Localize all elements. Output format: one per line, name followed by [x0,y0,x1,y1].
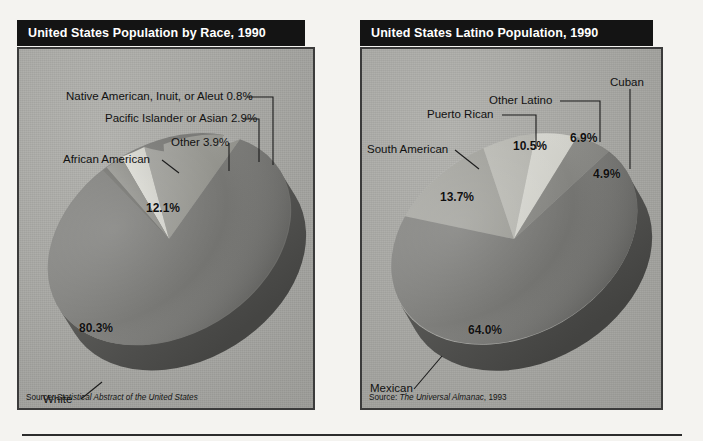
source-note-latino: Source: The Universal Almanac, 1993 [369,393,507,402]
slice-value-other-latino: 6.9% [570,131,597,145]
figure-page: United States Population by Race, 1990 [0,0,703,441]
callout-other: Other 3.9% [171,136,229,149]
callout-south-american-label: South American [367,143,448,156]
source-prefix-latino: Source: [369,393,400,402]
slice-value-white: 80.3% [79,321,113,335]
callout-other-label: Other [171,136,200,148]
callout-cuban-label: Cuban [610,76,644,89]
chart-panel-race: United States Population by Race, 1990 [17,20,335,410]
callout-pacific-islander: Pacific Islander or Asian 2.9% [105,112,257,125]
callout-pacific-islander-value: 2.9% [231,112,257,124]
source-title-race: Statistical Abstract of the United State… [57,393,198,402]
chart-title-latino: United States Latino Population, 1990 [360,26,598,40]
callout-native-american: Native American, Inuit, or Aleut 0.8% [66,90,253,103]
callout-other-value: 3.9% [203,136,229,148]
source-prefix-race: Source: [26,393,57,402]
callout-native-american-label: Native American, Inuit, or Aleut [66,90,223,102]
slice-value-mexican: 64.0% [468,323,502,337]
source-suffix-latino: , 1993 [484,393,507,402]
chart-title-bar-latino: United States Latino Population, 1990 [360,20,653,46]
chart-title-race: United States Population by Race, 1990 [17,26,266,40]
chart-title-bar-race: United States Population by Race, 1990 [17,20,305,46]
source-note-race: Source: Statistical Abstract of the Unit… [26,393,198,402]
callout-pacific-islander-label: Pacific Islander or Asian [105,112,228,124]
callout-african-american-label: African American [63,153,150,166]
slice-value-puerto-rican: 10.5% [513,139,547,153]
chart-plot-area-race: Native American, Inuit, or Aleut 0.8% Pa… [17,47,315,410]
callout-other-latino-label: Other Latino [489,94,552,107]
slice-value-cuban: 4.9% [593,167,620,181]
slice-value-south-american: 13.7% [440,190,474,204]
slice-value-african-american: 12.1% [146,201,180,215]
callout-leaders-race [19,49,315,410]
source-title-latino: The Universal Almanac [400,393,484,402]
callout-native-american-value: 0.8% [226,90,252,102]
callout-puerto-rican-label: Puerto Rican [427,108,493,121]
bottom-rule [22,434,682,436]
chart-plot-area-latino: Cuban Other Latino Puerto Rican South Am… [360,47,663,410]
chart-panel-latino: United States Latino Population, 1990 [360,20,682,410]
